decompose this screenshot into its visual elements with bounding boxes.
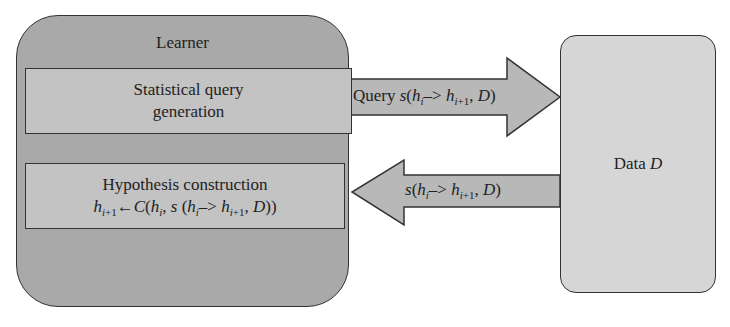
query-box-line1: Statistical query xyxy=(26,79,351,101)
learner-title: Learner xyxy=(17,33,348,53)
data-var: D xyxy=(650,154,662,174)
hypothesis-formula: hi+1←C(hi, s (hi–> hi+1, D)) xyxy=(26,196,344,218)
query-generation-box: Statistical query generation xyxy=(25,68,352,134)
learner-container: Learner Statistical query generation Hyp… xyxy=(16,15,349,307)
response-arrow-label: s(hi–> hi+1, D) xyxy=(405,180,501,200)
hypothesis-box-line1: Hypothesis construction xyxy=(26,174,344,196)
query-arrow-label: Query s(hi–> hi+1, D) xyxy=(353,86,496,106)
query-box-line2: generation xyxy=(26,101,351,123)
data-box: Data D xyxy=(560,35,716,293)
data-label: Data xyxy=(614,154,646,174)
hypothesis-construction-box: Hypothesis construction hi+1←C(hi, s (hi… xyxy=(25,163,345,229)
